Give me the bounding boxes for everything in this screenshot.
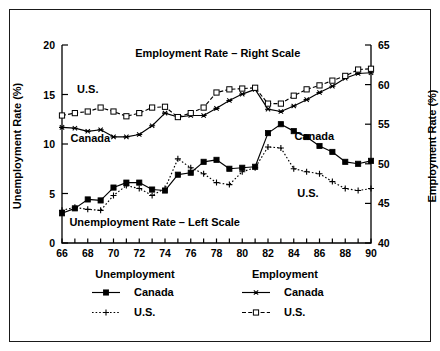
data-point-open-square-icon	[265, 101, 270, 106]
data-point-plus-icon	[278, 145, 284, 151]
data-point-plus-icon	[304, 169, 310, 175]
data-point-plus-icon	[136, 186, 142, 192]
data-point-asterisk-icon	[111, 135, 117, 139]
legend-item-employment-us[interactable]: U.S.	[242, 306, 305, 318]
data-point-filled-square-icon	[98, 198, 103, 203]
data-point-open-square-icon	[368, 66, 373, 71]
data-point-filled-square-icon	[150, 187, 155, 192]
data-point-plus-icon	[265, 144, 271, 150]
legend-item-label: U.S.	[284, 306, 305, 318]
data-point-open-square-icon	[72, 111, 77, 116]
data-point-plus-icon	[291, 166, 297, 172]
data-point-open-square-icon	[162, 104, 167, 109]
annotation-label: Employment Rate – Right Scale	[135, 47, 300, 59]
data-point-filled-square-icon	[175, 172, 180, 177]
data-point-open-square-icon	[137, 111, 142, 116]
y-axis-right-tick-label: 50	[378, 158, 390, 170]
data-point-asterisk-icon	[265, 107, 271, 111]
data-point-plus-icon	[342, 186, 348, 192]
y-axis-left-tick-label: 5	[49, 188, 55, 200]
annotation-label: U.S.	[77, 83, 98, 95]
figure-container: Unemployment Rate (%) Employment Rate (%…	[0, 0, 440, 351]
data-point-filled-square-icon	[111, 185, 116, 190]
x-axis-tick-label: 74	[159, 247, 171, 259]
series-unemployment-us	[59, 144, 374, 213]
data-point-open-square-icon	[59, 113, 64, 118]
data-point-plus-icon	[226, 182, 232, 188]
annotation-label: U.S.	[297, 187, 318, 199]
legend-header-employment: Employment	[252, 268, 318, 280]
data-point-open-square-icon	[124, 114, 129, 119]
data-point-asterisk-icon	[278, 109, 284, 113]
legend-item-label: Canada	[134, 286, 175, 298]
data-point-asterisk-icon	[149, 124, 155, 128]
legend-marker-asterisk-icon	[253, 290, 259, 294]
data-point-asterisk-icon	[317, 90, 323, 94]
data-point-open-square-icon	[304, 87, 309, 92]
data-point-open-square-icon	[111, 109, 116, 114]
data-point-filled-square-icon	[356, 161, 361, 166]
data-point-filled-square-icon	[368, 158, 373, 163]
x-axis-tick-label: 86	[314, 247, 326, 259]
data-point-open-square-icon	[150, 105, 155, 110]
y-axis-left-tick-label: 0	[49, 237, 55, 249]
data-point-asterisk-icon	[123, 135, 129, 139]
data-point-open-square-icon	[98, 105, 103, 110]
data-point-filled-square-icon	[85, 197, 90, 202]
data-point-plus-icon	[214, 180, 220, 186]
data-point-plus-icon	[368, 186, 374, 192]
series-line	[62, 147, 371, 210]
data-point-filled-square-icon	[188, 170, 193, 175]
data-point-open-square-icon	[278, 101, 283, 106]
data-point-plus-icon	[329, 179, 335, 185]
y-axis-right-tick-label: 40	[378, 237, 390, 249]
legend-marker-filled-square-icon	[103, 290, 108, 295]
y-axis-right-tick-label: 60	[378, 79, 390, 91]
x-axis-tick-label: 68	[82, 247, 94, 259]
data-point-filled-square-icon	[265, 131, 270, 136]
chart-legend: UnemploymentCanadaU.S.EmploymentCanadaU.…	[92, 268, 325, 318]
legend-item-unemployment-us[interactable]: U.S.	[92, 306, 155, 318]
data-point-asterisk-icon	[226, 98, 232, 102]
legend-item-unemployment-canada[interactable]: Canada	[92, 286, 175, 298]
x-axis-tick-label: 82	[262, 247, 274, 259]
data-point-plus-icon	[85, 206, 91, 212]
legend-marker-plus-icon	[103, 310, 109, 316]
data-point-filled-square-icon	[317, 143, 322, 148]
data-point-open-square-icon	[343, 73, 348, 78]
data-point-filled-square-icon	[330, 149, 335, 154]
data-point-asterisk-icon	[162, 111, 168, 115]
data-point-open-square-icon	[227, 87, 232, 92]
data-point-open-square-icon	[330, 78, 335, 83]
data-point-asterisk-icon	[239, 92, 245, 96]
x-axis-tick-label: 90	[365, 247, 377, 259]
data-point-open-square-icon	[253, 85, 258, 90]
legend-item-employment-canada[interactable]: Canada	[242, 286, 325, 298]
y-axis-left-tick-label: 15	[43, 89, 55, 101]
y-axis-left-tick-label: 10	[43, 138, 55, 150]
y-axis-right-tick-label: 65	[378, 39, 390, 51]
data-point-asterisk-icon	[329, 84, 335, 88]
data-point-filled-square-icon	[278, 122, 283, 127]
data-point-open-square-icon	[291, 93, 296, 98]
data-point-filled-square-icon	[137, 180, 142, 185]
data-point-open-square-icon	[317, 83, 322, 88]
data-point-open-square-icon	[240, 86, 245, 91]
data-point-plus-icon	[201, 171, 207, 177]
data-point-filled-square-icon	[343, 159, 348, 164]
x-axis-tick-label: 84	[288, 247, 300, 259]
data-point-filled-square-icon	[201, 159, 206, 164]
series-employment-canada	[59, 71, 374, 139]
legend-item-label: Canada	[284, 286, 325, 298]
data-point-open-square-icon	[188, 111, 193, 116]
data-point-asterisk-icon	[291, 104, 297, 108]
annotation-label: Canada	[70, 132, 111, 144]
x-axis-tick-label: 80	[236, 247, 248, 259]
data-point-plus-icon	[149, 192, 155, 198]
annotation-label: Unemployment Rate – Left Scale	[69, 216, 240, 228]
data-point-asterisk-icon	[72, 126, 78, 130]
data-point-open-square-icon	[201, 105, 206, 110]
data-point-filled-square-icon	[227, 166, 232, 171]
series-employment-us	[59, 66, 373, 120]
x-axis-tick-label: 66	[56, 247, 68, 259]
